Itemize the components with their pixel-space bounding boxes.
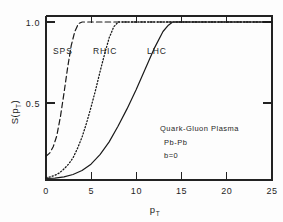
- curve-label-lhc: LHC: [147, 46, 167, 56]
- xtick-label-0: 0: [43, 186, 49, 196]
- xtick-label-25: 25: [266, 186, 277, 196]
- y-title-s: S: [9, 117, 20, 124]
- xtick-label-15: 15: [176, 186, 187, 196]
- curve-label-rhic: RHIC: [93, 46, 117, 56]
- y-title-close: ): [9, 100, 20, 104]
- annotation-line-1: Quark-Gluon Plasma: [160, 124, 239, 133]
- xtick-label-5: 5: [88, 186, 94, 196]
- annotation-line-2: Pb-Pb: [164, 138, 187, 147]
- annotation-line-3: b=0: [164, 151, 178, 160]
- svg-text:S(pT): S(pT): [9, 100, 22, 124]
- y-title-open: (p: [9, 108, 20, 117]
- ytick-label-top: 1.0: [26, 18, 40, 28]
- x-title-sub: T: [156, 210, 160, 217]
- quark-gluon-plasma-chart: 1.0 0.5 0 5 10 15 20 25 S(pT) pT SPS RHI…: [0, 0, 283, 222]
- ytick-label-mid: 0.5: [26, 99, 40, 109]
- curve-label-sps: SPS: [53, 46, 73, 56]
- xtick-label-20: 20: [221, 186, 232, 196]
- figure-container: 1.0 0.5 0 5 10 15 20 25 S(pT) pT SPS RHI…: [0, 0, 283, 222]
- xtick-label-10: 10: [131, 186, 142, 196]
- y-axis-title: S(pT): [9, 100, 22, 124]
